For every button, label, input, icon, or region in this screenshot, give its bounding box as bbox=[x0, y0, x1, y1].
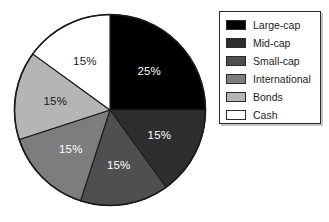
pie-slice-value-label: 15% bbox=[59, 143, 83, 155]
legend-item-label: Cash bbox=[253, 110, 278, 121]
legend-item[interactable]: Mid-cap bbox=[226, 34, 316, 52]
legend-item[interactable]: International bbox=[226, 70, 316, 88]
pie-slice-value-label: 15% bbox=[43, 95, 67, 107]
pie-chart-figure: 25%15%15%15%15%15% Large-capMid-capSmall… bbox=[0, 0, 329, 222]
legend-item[interactable]: Large-cap bbox=[226, 16, 316, 34]
chart-legend: Large-capMid-capSmall-capInternationalBo… bbox=[219, 11, 321, 124]
pie-svg: 25%15%15%15%15%15% bbox=[12, 12, 208, 208]
pie-chart-plot-area: 25%15%15%15%15%15% bbox=[12, 12, 208, 208]
legend-item[interactable]: Cash bbox=[226, 106, 316, 124]
legend-color-swatch bbox=[226, 56, 246, 66]
legend-item-label: International bbox=[253, 74, 311, 85]
legend-item[interactable]: Bonds bbox=[226, 88, 316, 106]
pie-slice-value-label: 15% bbox=[107, 159, 131, 171]
legend-item-label: Mid-cap bbox=[253, 38, 290, 49]
pie-slice-value-label: 15% bbox=[148, 129, 172, 141]
pie-slices bbox=[14, 15, 205, 206]
legend-color-swatch bbox=[226, 20, 246, 30]
legend-color-swatch bbox=[226, 38, 246, 48]
legend-item-label: Large-cap bbox=[253, 20, 300, 31]
pie-slice-value-label: 25% bbox=[137, 65, 161, 77]
legend-color-swatch bbox=[226, 110, 246, 120]
legend-item-label: Small-cap bbox=[253, 56, 300, 67]
legend-item-list: Large-capMid-capSmall-capInternationalBo… bbox=[226, 16, 316, 124]
pie-slice-value-label: 15% bbox=[73, 55, 97, 67]
legend-item-label: Bonds bbox=[253, 92, 283, 103]
legend-item[interactable]: Small-cap bbox=[226, 52, 316, 70]
pie-slice[interactable] bbox=[110, 15, 206, 111]
legend-color-swatch bbox=[226, 92, 246, 102]
legend-color-swatch bbox=[226, 74, 246, 84]
